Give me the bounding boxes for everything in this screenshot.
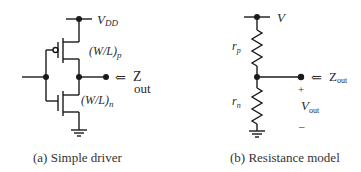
simple-driver-schematic [22,19,106,136]
zout-label-b: Zout [329,69,348,85]
zout-arrow: ⇐ [115,70,126,85]
zout-arrow-b: ⇐ [311,70,322,85]
rp-label: rp [232,39,241,55]
vdd-label: VDD [97,12,118,28]
plus-sign: + [298,83,304,95]
circuit-figure: VDD (W/L)p (W/L)n ⇐ Z out V rp rn ⇐ Zout… [0,0,361,172]
rn-label: rn [232,94,241,110]
resistance-model-schematic [244,17,301,137]
vout-label: Vout [301,98,320,115]
caption-a: (a) Simple driver [33,150,122,165]
junction-dots [43,14,304,80]
minus-sign: – [298,120,305,132]
zout-subscript: out [134,81,151,96]
v-supply-label: V [277,10,287,25]
nmos-size-label: (W/L)n [81,93,114,109]
caption-b: (b) Resistance model [230,150,340,165]
pmos-size-label: (W/L)p [89,44,122,60]
